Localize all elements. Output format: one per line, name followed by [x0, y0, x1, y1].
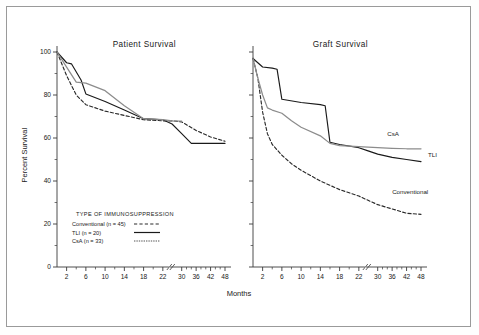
x-tick-label: 2 — [65, 273, 69, 280]
curve-label-conventional: Conventional — [392, 188, 428, 195]
figure-canvas: 020406080100261014182230364248Patient Su… — [0, 0, 479, 335]
x-tick-label: 42 — [403, 273, 411, 280]
curve-gray — [57, 52, 182, 121]
x-tick-label: 2 — [261, 273, 265, 280]
x-tick-label: 18 — [140, 273, 148, 280]
curve-solid — [57, 52, 225, 143]
y-tick-label: 60 — [44, 134, 52, 141]
curve-dashed — [57, 52, 225, 141]
y-tick-label: 20 — [44, 220, 52, 227]
x-tick-label: 48 — [417, 273, 425, 280]
survival-curves-chart: 020406080100261014182230364248Patient Su… — [0, 0, 479, 335]
x-tick-label: 30 — [374, 273, 382, 280]
x-tick-label: 48 — [221, 273, 229, 280]
y-tick-label: 0 — [47, 263, 51, 270]
panel-title-0: Patient Survival — [113, 40, 176, 49]
x-tick-label: 6 — [84, 273, 88, 280]
y-tick-label: 80 — [44, 91, 52, 98]
legend-entry-label: Conventional (n = 45) — [72, 221, 126, 227]
x-tick-label: 10 — [297, 273, 305, 280]
x-tick-label: 6 — [280, 273, 284, 280]
panel-title-1: Graft Survival — [313, 40, 368, 49]
x-tick-label: 14 — [121, 273, 129, 280]
x-tick-label: 22 — [355, 273, 363, 280]
x-tick-label: 36 — [192, 273, 200, 280]
x-tick-label: 42 — [207, 273, 215, 280]
y-tick-label: 100 — [40, 48, 51, 55]
y-tick-label: 40 — [44, 177, 52, 184]
y-axis-title: Percent Survival — [20, 128, 29, 183]
x-tick-label: 36 — [388, 273, 396, 280]
x-tick-label: 30 — [178, 273, 186, 280]
x-tick-label: 18 — [336, 273, 344, 280]
x-tick-label: 22 — [159, 273, 167, 280]
x-tick-label: 10 — [101, 273, 109, 280]
legend-title: TYPE OF IMMUNOSUPPRESSION — [76, 211, 174, 217]
legend-entry-label: TLI (n = 20) — [72, 230, 101, 236]
curve-label-tli: TLI — [428, 151, 437, 158]
x-axis-title: Months — [227, 289, 252, 298]
curve-label-csa: CsA — [387, 130, 400, 137]
curve-solid — [253, 58, 421, 161]
legend-entry-label: CsA (n = 33) — [72, 238, 103, 244]
x-tick-label: 14 — [317, 273, 325, 280]
